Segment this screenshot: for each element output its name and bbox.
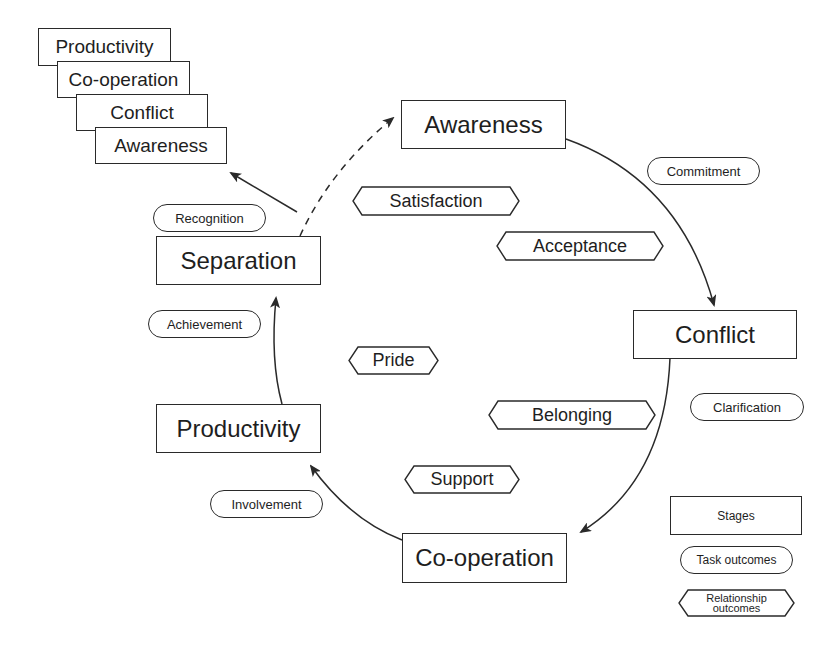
arrow-productivity-to-separation [274,298,282,404]
stage-conflict: Conflict [633,310,797,359]
stage-separation: Separation [156,236,321,285]
task-outcome-recognition: Recognition [153,204,266,232]
arrow-cooperation-to-productivity [311,466,402,540]
task-outcome-involvement: Involvement [210,490,323,518]
legend-relationship-outcomes: Relationship outcomes [678,589,795,617]
relationship-outcome-support: Support [404,465,520,494]
task-outcome-clarification: Clarification [690,393,804,421]
relationship-outcome-satisfaction: Satisfaction [352,186,520,216]
relationship-outcome-acceptance: Acceptance [496,231,664,261]
task-outcome-achievement: Achievement [148,310,261,338]
arrow-separation-to-awareness-dashed [300,118,393,236]
stack-box-conflict: Conflict [76,94,208,131]
stage-productivity: Productivity [156,404,321,453]
legend-stages: Stages [670,496,802,535]
task-outcome-commitment: Commitment [647,157,760,185]
arrow-conflict-to-cooperation [581,358,670,532]
stage-cooperation: Co-operation [402,533,567,583]
stack-box-cooperation: Co-operation [57,61,190,98]
relationship-outcome-pride: Pride [348,346,439,375]
legend-task-outcomes: Task outcomes [680,546,793,574]
stage-awareness: Awareness [401,100,566,149]
stack-box-awareness: Awareness [95,127,227,164]
relationship-outcome-belonging: Belonging [488,400,656,430]
